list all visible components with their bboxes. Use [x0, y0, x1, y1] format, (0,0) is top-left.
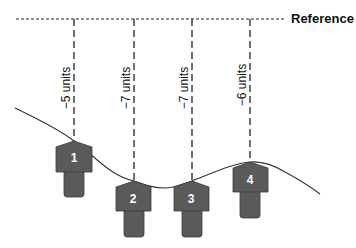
marker-number-4: 4: [247, 173, 254, 187]
measure-label-4: −6 units: [235, 64, 249, 106]
marker-number-2: 2: [130, 192, 137, 206]
measure-label-1: −5 units: [59, 67, 73, 109]
elevation-diagram: [0, 0, 356, 248]
marker-3: [174, 181, 209, 237]
marker-2: [116, 181, 151, 237]
reference-label: Reference: [291, 11, 354, 26]
marker-1: [56, 141, 92, 197]
marker-number-3: 3: [188, 192, 195, 206]
measure-label-2: −7 units: [119, 67, 133, 109]
marker-4: [233, 162, 268, 218]
marker-number-1: 1: [71, 151, 78, 165]
measure-label-3: −7 units: [177, 67, 191, 109]
